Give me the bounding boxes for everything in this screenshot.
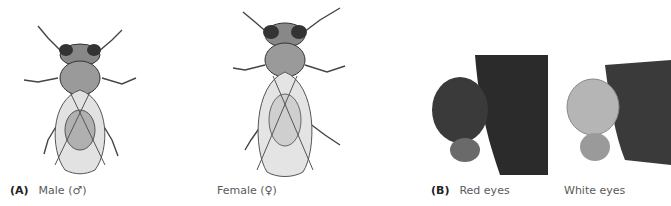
white-eyes-photo bbox=[555, 55, 671, 175]
white-eyes-caption: White eyes bbox=[564, 184, 625, 197]
caption-female: Female (♀) bbox=[217, 184, 277, 197]
caption-red-eyes: (B)Red eyes bbox=[431, 184, 510, 197]
red-eyes-photo bbox=[430, 55, 548, 175]
female-fly-illustration bbox=[215, 0, 355, 180]
red-eyes-caption: Red eyes bbox=[459, 184, 509, 197]
caption-white-eyes: White eyes bbox=[564, 184, 625, 197]
panel-label-b: (B) bbox=[431, 184, 449, 197]
female-caption: Female (♀) bbox=[217, 184, 277, 197]
male-caption: Male (♂) bbox=[39, 184, 87, 197]
caption-male: (A)Male (♂) bbox=[10, 184, 87, 197]
male-fly-illustration bbox=[10, 0, 150, 180]
panel-label-a: (A) bbox=[10, 184, 29, 197]
